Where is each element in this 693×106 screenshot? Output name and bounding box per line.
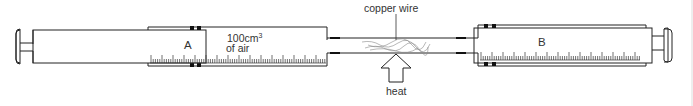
volume-unit-sup: 3 [259,32,263,39]
syringe-a-scale [150,55,326,63]
syringe-b-label: B [538,37,546,48]
syringe-a-label: A [184,40,192,51]
apparatus-drawing [0,0,693,106]
syringe-b-plunger [652,28,672,62]
apparatus-diagram: A 100cm3 of air B copper wire heat [0,0,693,106]
glass-tube [327,38,478,53]
heat-label: heat [386,86,406,97]
heat-arrow-icon [381,54,411,82]
copper-wire-label: copper wire [364,3,418,14]
syringe-a-plunger [16,29,206,64]
syringe-b-scale [480,52,640,60]
syringe-a-contents: of air [226,43,249,54]
